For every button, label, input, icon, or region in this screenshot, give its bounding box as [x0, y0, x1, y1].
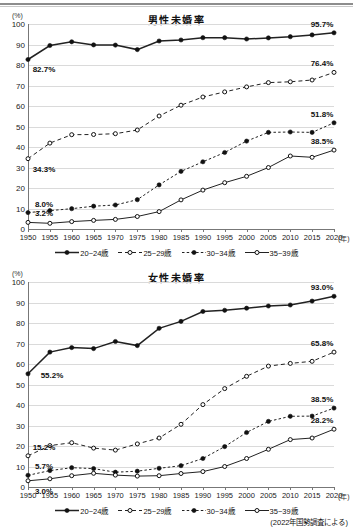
chart-female-unmarried-rate: 女性未婚率 (%) 010203040506070809010019501955…: [0, 268, 353, 523]
data-point-marker: [70, 441, 74, 445]
y-axis-tick-label: 60: [16, 360, 25, 369]
series-line: [28, 296, 334, 374]
x-axis-tick-label: 2005: [260, 233, 277, 242]
plot-area-male: 0102030405060708090100195019551960196519…: [28, 24, 334, 229]
data-label: 3.0%: [35, 486, 53, 495]
data-point-marker: [288, 80, 292, 84]
y-axis-tick-label: 70: [16, 81, 25, 90]
legend-swatch-icon: [55, 248, 79, 257]
data-point-marker: [157, 39, 161, 43]
data-point-marker: [332, 427, 336, 431]
data-label: 76.4%: [311, 59, 334, 68]
data-point-marker: [179, 169, 183, 173]
x-axis-tickmark: [312, 229, 313, 232]
data-point-marker: [157, 183, 161, 187]
data-point-marker: [201, 309, 205, 313]
data-point-marker: [157, 114, 161, 118]
data-point-marker: [92, 204, 96, 208]
y-axis-tick-label: 100: [12, 20, 25, 29]
data-point-marker: [288, 130, 292, 134]
data-point-marker: [179, 38, 183, 42]
series-line: [28, 72, 334, 158]
x-axis-tick-label: 2000: [238, 233, 255, 242]
x-axis-tickmark: [334, 229, 335, 232]
x-axis-tick-label: 1955: [42, 233, 59, 242]
data-point-marker: [223, 90, 227, 94]
legend-swatch-icon: [118, 248, 142, 257]
data-point-marker: [310, 130, 314, 134]
data-point-marker: [245, 85, 249, 89]
data-label: 95.7%: [311, 19, 334, 28]
data-point-marker: [223, 36, 227, 40]
x-axis-tick-label: 1965: [85, 491, 102, 500]
data-point-marker: [245, 306, 249, 310]
x-axis-tick-label: 1970: [107, 491, 124, 500]
source-note: (2022年国勢調査による): [270, 516, 348, 527]
data-point-marker: [332, 406, 336, 410]
data-point-marker: [201, 456, 205, 460]
y-axis-tick-label: 50: [16, 380, 25, 389]
x-axis-tickmark: [94, 229, 95, 232]
data-point-marker: [266, 166, 270, 170]
data-point-marker: [179, 472, 183, 476]
legend-label: 35~39歳: [270, 249, 298, 258]
data-point-marker: [310, 299, 314, 303]
legend-swatch-icon: [55, 506, 79, 515]
data-point-marker: [48, 141, 52, 145]
y-axis-tick-label: 40: [16, 143, 25, 152]
data-point-marker: [288, 438, 292, 442]
y-axis-tick-label: 10: [16, 204, 25, 213]
y-axis-tick-label: 30: [16, 163, 25, 172]
legend-swatch-icon: [245, 248, 269, 257]
legend-label: 30~34歳: [207, 507, 235, 516]
legend-label: 20~24歳: [80, 507, 108, 516]
data-point-marker: [48, 221, 52, 225]
data-point-marker: [92, 347, 96, 351]
data-point-marker: [70, 220, 74, 224]
legend-male: 20~24歳25~29歳30~34歳35~39歳: [0, 247, 353, 258]
x-axis-tick-label: 1980: [151, 491, 168, 500]
data-point-marker: [201, 160, 205, 164]
data-point-marker: [223, 181, 227, 185]
data-point-marker: [245, 374, 249, 378]
x-axis-tick-label: 1995: [216, 233, 233, 242]
x-axis-tick-label: 2000: [238, 491, 255, 500]
x-axis-tickmark: [290, 229, 291, 232]
series-layer: [28, 282, 334, 487]
data-point-marker: [179, 422, 183, 426]
y-axis-tick-label: 90: [16, 298, 25, 307]
x-axis-tickmark: [247, 487, 248, 490]
data-point-marker: [179, 103, 183, 107]
data-point-marker: [157, 326, 161, 330]
x-axis-unit-male: (年): [338, 233, 350, 243]
legend-label: 25~29歳: [143, 507, 171, 516]
data-point-marker: [26, 157, 30, 161]
x-axis-tickmark: [72, 487, 73, 490]
data-point-marker: [135, 469, 139, 473]
x-axis-tickmark: [137, 229, 138, 232]
data-point-marker: [26, 211, 30, 215]
legend-swatch-icon: [118, 506, 142, 515]
data-point-marker: [26, 479, 30, 483]
y-axis-tick-label: 90: [16, 40, 25, 49]
legend-item: 20~24歳: [55, 247, 108, 258]
x-axis-tick-label: 1990: [195, 233, 212, 242]
data-point-marker: [70, 133, 74, 137]
data-point-marker: [70, 207, 74, 211]
data-label: 8.0%: [35, 199, 53, 208]
data-point-marker: [288, 303, 292, 307]
legend-swatch-icon: [245, 506, 269, 515]
y-axis-tick-label: 60: [16, 102, 25, 111]
legend-item: 20~24歳: [55, 505, 108, 516]
x-axis-tick-label: 1985: [173, 233, 190, 242]
data-point-marker: [70, 474, 74, 478]
data-point-marker: [179, 319, 183, 323]
data-label: 34.3%: [33, 164, 56, 173]
data-point-marker: [310, 436, 314, 440]
data-point-marker: [201, 470, 205, 474]
data-point-marker: [157, 474, 161, 478]
data-point-marker: [266, 36, 270, 40]
data-point-marker: [332, 31, 336, 35]
data-point-marker: [245, 174, 249, 178]
top-rule-hairline: [0, 6, 353, 7]
